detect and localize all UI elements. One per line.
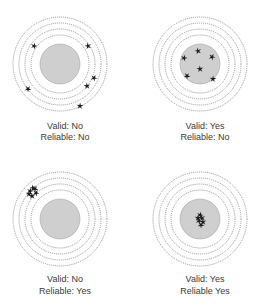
bullseye (40, 44, 80, 84)
valid-label: Valid: No (0, 121, 130, 132)
valid-label: Valid: Yes (140, 121, 260, 132)
valid-label: Valid: No (0, 274, 130, 285)
reliable-label: Reliable: No (140, 132, 260, 143)
reliable-label: Reliable Yes (140, 286, 260, 297)
target-panel-valid-reliable: Valid: Yes Reliable Yes (130, 154, 260, 308)
target-panel-valid-not-reliable: Valid: Yes Reliable: No (130, 0, 260, 154)
target-panel-not-valid-not-reliable: Valid: No Reliable: No (0, 0, 130, 154)
target-panel-not-valid-reliable: Valid: No Reliable: Yes (0, 154, 130, 308)
valid-label: Valid: Yes (140, 274, 260, 285)
reliable-label: Reliable: No (0, 132, 130, 143)
hit-mark-icon (31, 43, 37, 50)
bullseye (40, 199, 80, 239)
reliable-label: Reliable: Yes (0, 286, 130, 297)
hit-mark-icon (77, 102, 84, 109)
